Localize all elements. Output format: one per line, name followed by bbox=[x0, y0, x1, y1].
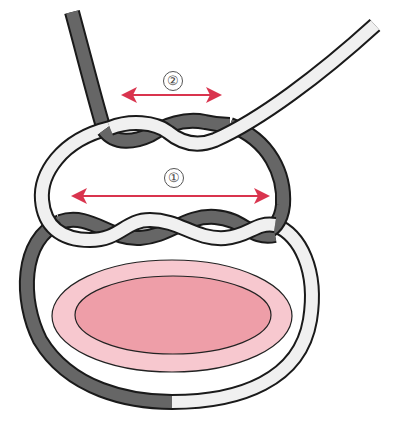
dark-strand-top bbox=[72, 12, 104, 130]
label-1: ① bbox=[164, 168, 184, 188]
knot-svg bbox=[0, 0, 401, 427]
label-2: ② bbox=[163, 71, 183, 91]
oval-target bbox=[52, 260, 292, 372]
light-strand-top bbox=[110, 25, 375, 144]
knot-diagram: ② ① bbox=[0, 0, 401, 427]
